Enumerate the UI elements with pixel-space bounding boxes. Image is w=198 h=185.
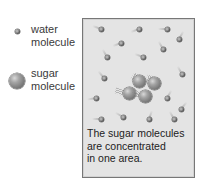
legend-item-water: water molecule [0,22,80,52]
water-molecule-icon [121,115,126,120]
legend-label-sugar: sugar molecule [31,67,75,93]
water-molecule-icon [177,37,182,42]
water-molecule-icon [94,96,99,101]
water-molecule-icon [15,29,20,34]
water-molecule-icon [102,76,107,81]
caption: The sugar molecules are concentrated in … [87,127,184,165]
legend-label-water: water molecule [31,23,75,49]
water-molecule-icon [105,55,110,60]
sugar-molecule-icon [133,75,146,88]
sugar-molecule-icon [148,77,161,90]
legend-item-sugar: sugar molecule [0,66,80,96]
water-molecule-icon [147,117,152,122]
sugar-molecule-icon [9,73,25,89]
water-molecule-icon [179,107,184,112]
legend: water molecule sugar molecule [0,0,80,185]
water-molecule-icon [165,96,170,101]
sugar-molecule-icon [139,90,152,103]
water-molecule-icon [141,55,146,60]
solution-container: The sugar molecules are concentrated in … [82,18,195,178]
water-molecule-icon [99,117,104,122]
water-molecule-icon [137,27,142,32]
water-molecule-icon [161,47,166,52]
water-molecule-icon [119,41,124,46]
water-molecule-icon [99,27,104,32]
water-molecule-icon [180,72,185,77]
water-molecule-icon [172,117,177,122]
water-molecule-icon [165,27,170,32]
